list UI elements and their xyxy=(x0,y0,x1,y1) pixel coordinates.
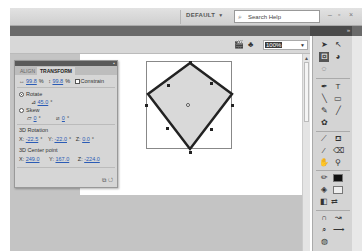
straighten-lines-icon[interactable]: ⟶ xyxy=(333,225,343,235)
transform-handle[interactable] xyxy=(231,104,234,107)
eraser-tool-icon[interactable]: ⌫ xyxy=(333,146,343,156)
minimize-button[interactable]: – xyxy=(328,11,332,18)
deco-tool-icon[interactable]: ✿ xyxy=(319,118,329,128)
rotation-3d-row: X: -22.5° Y: -22.0° Z: 0.0° xyxy=(19,136,94,142)
panel-tabs: ALIGN TRANSFORM xyxy=(15,66,117,75)
swap-colors-icon[interactable]: ⇄ xyxy=(329,197,339,207)
fill-color-icon: ◈ xyxy=(319,185,329,195)
transform-handle[interactable] xyxy=(210,128,213,131)
line-tool-icon[interactable]: ╲ xyxy=(319,94,329,104)
3d-rotation-tool-icon[interactable]: ◕ xyxy=(333,52,343,62)
snap-to-objects-icon[interactable]: ∩ xyxy=(319,213,329,223)
skew-label: Skew xyxy=(26,107,39,113)
transform-handle[interactable] xyxy=(145,104,148,107)
diamond-shape[interactable] xyxy=(146,61,234,153)
stroke-color-icon: ✏ xyxy=(319,173,329,183)
rotation-y-value[interactable]: -22.0 xyxy=(54,136,67,142)
rotation-x-value[interactable]: -22.5 xyxy=(26,136,39,142)
reset-transform-icon[interactable]: ↺ xyxy=(108,177,113,183)
rotation-3d-label: 3D Rotation xyxy=(19,127,48,133)
skew-option[interactable]: Skew xyxy=(19,107,39,113)
scroll-thumb[interactable] xyxy=(304,62,309,122)
transform-handle[interactable] xyxy=(189,61,192,64)
title-divider xyxy=(180,10,181,24)
tab-align[interactable]: ALIGN xyxy=(17,67,38,75)
lasso-tool-icon[interactable]: ◌ xyxy=(319,64,329,74)
tools-panel-header: » xyxy=(310,26,352,36)
black-white-icon[interactable]: ◧ xyxy=(319,197,329,207)
rotate-option[interactable]: Rotate xyxy=(19,91,42,97)
duplicate-transform-icon[interactable]: ⧉ xyxy=(102,177,106,183)
scale-height-value[interactable]: 99.8 xyxy=(52,78,63,84)
hand-tool-icon[interactable]: ✋ xyxy=(319,158,329,168)
skew-vertical-icon: ⧄ xyxy=(56,115,60,121)
text-tool-icon[interactable]: T xyxy=(333,82,343,92)
rectangle-tool-icon[interactable]: ▭ xyxy=(333,94,343,104)
tab-transform[interactable]: TRANSFORM xyxy=(37,67,75,75)
center-y-value[interactable]: 167.0 xyxy=(55,156,69,162)
pen-tool-icon[interactable]: ✒ xyxy=(319,82,329,92)
rotation-z-value[interactable]: 0.0 xyxy=(82,136,90,142)
subselection-tool-icon[interactable]: ↖ xyxy=(333,40,343,50)
selection-tool-icon[interactable]: ➤ xyxy=(319,40,329,50)
pencil-tool-icon[interactable]: ✎ xyxy=(319,106,329,116)
transform-handle[interactable] xyxy=(210,82,213,85)
search-icon: ⌕ xyxy=(238,13,242,21)
brush-tool-icon[interactable]: ╱ xyxy=(333,106,343,116)
skew-radio[interactable] xyxy=(19,108,24,113)
divider xyxy=(17,87,115,88)
edit-scene-icon[interactable]: 🎬 xyxy=(234,40,244,49)
divider xyxy=(316,131,350,132)
tool-option-icon[interactable]: ◍ xyxy=(319,237,329,247)
edit-symbols-icon[interactable]: ♣ xyxy=(248,40,253,49)
transform-handle[interactable] xyxy=(167,84,170,87)
scale-width-value[interactable]: 99.8 xyxy=(26,78,37,84)
rotate-radio[interactable] xyxy=(19,92,24,97)
constrain-checkbox[interactable] xyxy=(75,79,80,84)
free-transform-tool-icon[interactable]: ⊡ xyxy=(319,52,329,62)
paint-bucket-tool-icon[interactable]: ⛾ xyxy=(333,134,343,144)
collapse-icon[interactable]: » xyxy=(347,27,350,33)
workspace-switcher[interactable]: DEFAULT▼ xyxy=(186,12,224,18)
vertical-scrollbar[interactable]: ▲ xyxy=(302,54,310,251)
skew-horizontal-icon: ▱ xyxy=(27,115,32,121)
transform-handle[interactable] xyxy=(189,151,192,154)
skew-h-value[interactable]: 0 xyxy=(34,115,37,121)
close-button[interactable]: × xyxy=(349,11,353,18)
rotate-value[interactable]: 45.0 xyxy=(38,99,49,105)
search-placeholder: Search Help xyxy=(248,14,281,20)
straighten-icon[interactable]: ⌕ xyxy=(319,225,329,235)
panel-footer: ⧉ ↺ xyxy=(102,177,113,184)
rotate-value-row: ⊿ 45.0° xyxy=(31,99,52,105)
fill-color-swatch[interactable] xyxy=(333,186,343,194)
stroke-color-swatch[interactable] xyxy=(333,174,343,182)
scale-width-icon: ↔ xyxy=(19,78,25,84)
tools-panel: ➤ ↖ ⊡ ◕ ◌ ✒ T ╲ ▭ ✎ ╱ ✿ ⟋ ⛾ ⁄ ⌫ ✋ ⚲ ✏ ◈ … xyxy=(312,36,352,251)
restore-button[interactable]: ▫ xyxy=(338,11,340,18)
rotate-label: Rotate xyxy=(26,91,42,97)
divider xyxy=(17,124,115,125)
divider xyxy=(316,210,350,211)
center-3d-label: 3D Center point xyxy=(19,147,58,153)
smooth-icon[interactable]: ↝ xyxy=(333,213,343,223)
scroll-up-icon[interactable]: ▲ xyxy=(304,55,309,61)
scale-row: ↔ 99.8% ↕ 99.8% Constrain xyxy=(19,78,104,84)
skew-v-value[interactable]: 0 xyxy=(62,115,65,121)
workspace-label: DEFAULT xyxy=(186,12,215,18)
zoom-tool-icon[interactable]: ⚲ xyxy=(333,158,343,168)
zoom-select[interactable]: 100% ▼ xyxy=(263,40,308,50)
window-edge xyxy=(352,36,362,251)
transform-point[interactable] xyxy=(186,103,190,107)
transform-handle[interactable] xyxy=(166,127,169,130)
chevron-down-icon: ▼ xyxy=(218,12,223,18)
eyedropper-tool-icon[interactable]: ⁄ xyxy=(319,146,329,156)
center-x-value[interactable]: 249.0 xyxy=(26,156,40,162)
document-tab-bar: » xyxy=(10,26,362,36)
search-help-input[interactable]: ⌕ Search Help xyxy=(234,10,320,23)
center-z-value[interactable]: -224.0 xyxy=(84,156,100,162)
edit-bar: 🎬 ♣ 100% ▼ xyxy=(10,36,310,54)
title-bar: DEFAULT▼ ⌕ Search Help – ▫ × xyxy=(10,8,362,26)
center-3d-row: X: 249.0 Y: 167.0 Z: -224.0 xyxy=(19,156,102,162)
bone-tool-icon[interactable]: ⟋ xyxy=(319,134,329,144)
transform-panel: ▪ ALIGN TRANSFORM ↔ 99.8% ↕ 99.8% Constr… xyxy=(14,60,118,188)
